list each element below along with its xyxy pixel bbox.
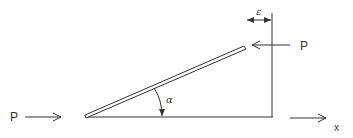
gap-label: ε: [256, 6, 261, 17]
inclined-bar-diagram: α P P ε x: [0, 0, 353, 138]
x-axis-label: x: [334, 122, 339, 133]
angle-arc: [154, 88, 162, 116]
force-left-label: P: [10, 110, 18, 124]
angle-label: α: [166, 94, 173, 105]
inclined-bar: [85, 46, 246, 118]
force-right-label: P: [300, 39, 308, 53]
